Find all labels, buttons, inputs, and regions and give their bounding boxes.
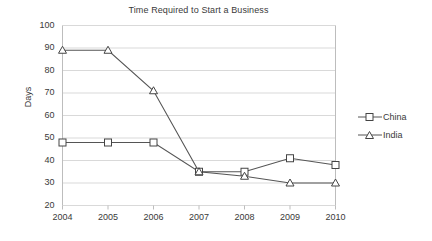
data-point-marker: [287, 155, 294, 162]
gridlines: [63, 26, 336, 206]
legend-item-china[interactable]: China: [358, 108, 407, 126]
x-tick-label: 2009: [270, 213, 310, 222]
x-tick-label: 2005: [88, 213, 128, 222]
x-tick-label: 2006: [134, 213, 174, 222]
data-point-marker: [59, 139, 66, 146]
y-tick-label: 80: [29, 66, 55, 75]
data-point-marker: [332, 162, 339, 169]
y-tick-label: 70: [29, 88, 55, 97]
legend-swatch-triangle-icon: [358, 129, 382, 141]
y-tick-label: 50: [29, 133, 55, 142]
y-tick-label: 20: [29, 201, 55, 210]
series-markers: [59, 46, 340, 186]
x-tick-label: 2010: [316, 213, 356, 222]
data-point-marker: [150, 139, 157, 146]
chart-container: Time Required to Start a Business Days 2…: [0, 0, 432, 241]
x-tick-label: 2007: [179, 213, 219, 222]
y-tick-label: 60: [29, 111, 55, 120]
x-tick-label: 2004: [43, 213, 83, 222]
chart-legend: China India: [358, 108, 407, 144]
legend-label-china: China: [383, 112, 407, 122]
legend-label-india: India: [383, 130, 403, 140]
x-tick-label: 2008: [225, 213, 265, 222]
x-tick-marks: [63, 206, 336, 210]
data-point-marker: [105, 139, 112, 146]
y-tick-label: 90: [29, 43, 55, 52]
legend-item-india[interactable]: India: [358, 126, 407, 144]
y-tick-label: 40: [29, 156, 55, 165]
legend-swatch-square-icon: [358, 111, 382, 123]
y-tick-label: 100: [29, 21, 55, 30]
y-tick-label: 30: [29, 178, 55, 187]
